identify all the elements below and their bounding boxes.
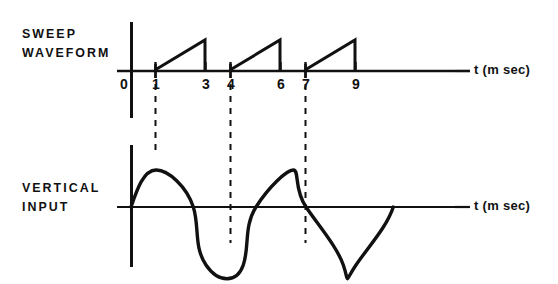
vertical-input-label-line1: VERTICAL — [22, 178, 100, 197]
tick-label-4: 4 — [224, 76, 238, 92]
tick-label-7: 7 — [299, 76, 313, 92]
sawtooth-traces — [155, 40, 355, 70]
sawtooth-ramp-3 — [305, 40, 355, 70]
sweep-tick-marks — [156, 62, 356, 71]
dashed-connectors — [156, 72, 306, 243]
sine-wave-trace — [131, 170, 393, 279]
sawtooth-ramp-1 — [155, 40, 205, 70]
tick-label-0: 0 — [117, 76, 131, 92]
sawtooth-ramp-2 — [230, 40, 280, 70]
vertical-input-label-line2: INPUT — [22, 197, 69, 216]
sweep-axis-label: t (m sec) — [474, 62, 530, 77]
sweep-waveform-panel — [117, 22, 470, 118]
vertical-input-panel — [117, 145, 470, 279]
tick-label-9: 9 — [349, 76, 363, 92]
sweep-waveform-label-line1: SWEEP — [22, 24, 77, 43]
input-axis-label: t (m sec) — [474, 198, 530, 213]
sweep-waveform-label-line2: WAVEFORM — [22, 43, 110, 62]
tick-label-1: 1 — [149, 76, 163, 92]
tick-label-6: 6 — [274, 76, 288, 92]
tick-label-3: 3 — [199, 76, 213, 92]
